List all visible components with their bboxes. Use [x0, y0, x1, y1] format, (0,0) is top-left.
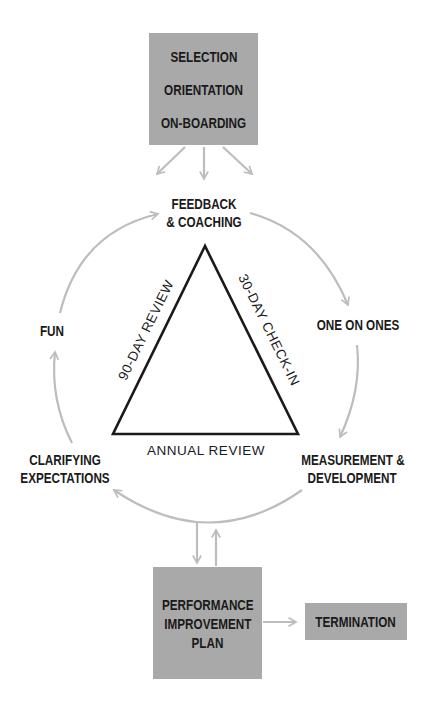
feedback-line-1: FEEDBACK	[157, 195, 251, 213]
arrow-onboarding-left	[157, 147, 185, 174]
fun-line: FUN	[29, 322, 76, 340]
onboarding-line-orientation: ORIENTATION	[164, 73, 243, 106]
pip-line-plan: PLAN	[192, 633, 224, 652]
pip-line-improvement: IMPROVEMENT	[164, 614, 251, 633]
measurement-line-2: DEVELOPMENT	[301, 469, 402, 487]
node-measurement-development: MEASUREMENT & DEVELOPMENT	[287, 451, 417, 487]
onboarding-line-selection: SELECTION	[170, 40, 237, 73]
onboarding-line-onboarding: ON-BOARDING	[161, 106, 246, 139]
arrow-measurement-to-clarifying	[114, 490, 302, 523]
arrow-onboarding-right	[223, 147, 252, 174]
node-one-on-ones: ONE ON ONES	[298, 316, 418, 334]
onboarding-box: SELECTION ORIENTATION ON-BOARDING	[149, 33, 258, 145]
termination-box: TERMINATION	[305, 603, 407, 640]
measurement-line-1: MEASUREMENT &	[301, 451, 402, 469]
feedback-line-2: & COACHING	[157, 213, 251, 231]
one-on-ones-line: ONE ON ONES	[311, 316, 405, 334]
pip-line-performance: PERFORMANCE	[162, 595, 254, 614]
arrow-one-on-ones-to-measurement	[340, 345, 358, 437]
pip-box: PERFORMANCE IMPROVEMENT PLAN	[153, 567, 262, 679]
node-feedback-coaching: FEEDBACK & COACHING	[144, 195, 264, 231]
node-clarifying-expectations: CLARIFYING EXPECTATIONS	[5, 451, 125, 487]
termination-label: TERMINATION	[316, 613, 396, 631]
arrow-feedback-to-one-on-ones	[250, 213, 348, 305]
clarifying-line-1: CLARIFYING	[18, 451, 112, 469]
clarifying-line-2: EXPECTATIONS	[18, 469, 112, 487]
node-fun: FUN	[22, 322, 82, 340]
triangle-base-label: ANNUAL REVIEW	[147, 443, 265, 458]
arrow-clarifying-to-fun	[54, 352, 72, 443]
